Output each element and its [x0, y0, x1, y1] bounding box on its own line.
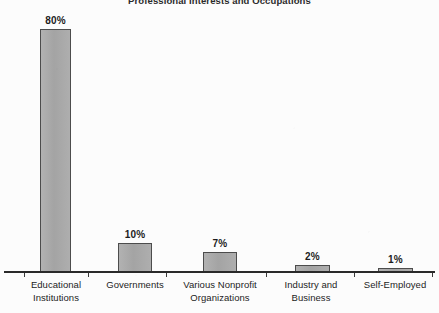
- bar-chart: Professional Interests and Occupations 8…: [0, 0, 439, 313]
- bar-value-label: 1%: [378, 254, 413, 265]
- bar-value-label: 2%: [295, 251, 330, 262]
- bar-group: 80%: [40, 28, 71, 273]
- category-label-line: Educational: [13, 279, 99, 292]
- plot-area: 80% 10% 7% 2% 1%: [0, 0, 439, 273]
- bar-value-label: 10%: [118, 229, 152, 240]
- x-axis-line: [4, 271, 435, 273]
- category-label-line: Industry and: [272, 279, 350, 292]
- bar: [118, 243, 152, 273]
- category-label-line: Organizations: [170, 292, 270, 305]
- axis-tick: [88, 273, 89, 277]
- category-label: Industry and Business: [272, 279, 350, 304]
- bar: [40, 29, 71, 273]
- bar: [203, 252, 237, 273]
- category-label: Governments: [99, 279, 171, 292]
- bar-group: 10%: [118, 228, 152, 273]
- axis-tick: [24, 273, 25, 277]
- category-label-line: Self-Employed: [355, 279, 435, 292]
- axis-tick: [432, 273, 433, 277]
- axis-tick: [266, 273, 267, 277]
- category-label-line: Institutions: [13, 292, 99, 305]
- category-label-line: Business: [272, 292, 350, 305]
- bar-group: 2%: [295, 245, 330, 273]
- bar-value-label: 7%: [203, 238, 237, 249]
- category-label: Self-Employed: [355, 279, 435, 292]
- category-label: Educational Institutions: [13, 279, 99, 304]
- category-label-line: Governments: [99, 279, 171, 292]
- bar-group: 7%: [203, 231, 237, 273]
- axis-tick: [354, 273, 355, 277]
- category-label: Various Nonprofit Organizations: [170, 279, 270, 304]
- category-label-line: Various Nonprofit: [170, 279, 270, 292]
- axis-tick: [166, 273, 167, 277]
- bar-value-label: 80%: [40, 15, 71, 26]
- bar-group: 1%: [378, 248, 413, 273]
